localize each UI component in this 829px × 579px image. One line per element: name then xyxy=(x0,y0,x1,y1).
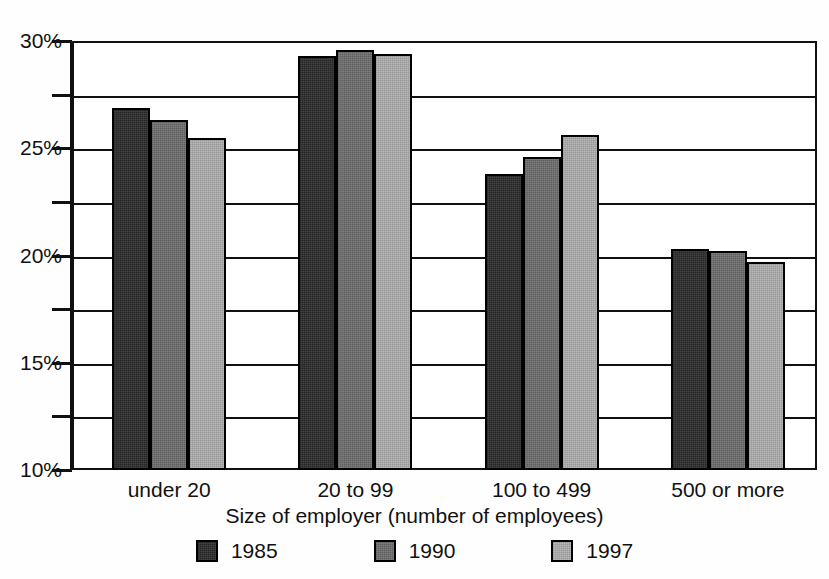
bar xyxy=(150,120,188,470)
legend-item: 1985 xyxy=(196,540,278,562)
legend-label: 1990 xyxy=(409,540,456,562)
y-tick-mark-30 xyxy=(52,40,72,43)
legend-label: 1997 xyxy=(586,540,633,562)
y-tick-mark-minor-22.5 xyxy=(52,201,72,204)
bar xyxy=(671,249,709,470)
x-tick-label: 500 or more xyxy=(628,478,828,502)
bar-group xyxy=(485,41,599,470)
bar xyxy=(298,56,336,470)
bar xyxy=(523,157,561,470)
y-tick-mark-25 xyxy=(52,147,72,150)
bar-group xyxy=(112,41,226,470)
y-tick-mark-10 xyxy=(52,469,72,472)
y-tick-mark-minor-12.5 xyxy=(52,415,72,418)
legend-label: 1985 xyxy=(231,540,278,562)
legend: 198519901997 xyxy=(0,540,829,562)
legend-swatch-icon xyxy=(196,540,218,562)
x-tick-label: 20 to 99 xyxy=(255,478,455,502)
legend-swatch-icon xyxy=(551,540,573,562)
legend-item: 1990 xyxy=(374,540,456,562)
bar xyxy=(485,174,523,470)
x-tick-label: 100 to 499 xyxy=(442,478,642,502)
bar-chart: 30%25%20%15%10% under 2020 to 99100 to 4… xyxy=(0,0,829,579)
y-tick-mark-15 xyxy=(52,362,72,365)
bar-group xyxy=(298,41,412,470)
bar xyxy=(188,138,226,470)
bar xyxy=(336,50,374,470)
legend-item: 1997 xyxy=(551,540,633,562)
legend-swatch-icon xyxy=(374,540,396,562)
x-axis-title: Size of employer (number of employees) xyxy=(0,504,829,528)
y-tick-mark-minor-17.5 xyxy=(52,308,72,311)
x-tick-label: under 20 xyxy=(69,478,269,502)
bar xyxy=(747,262,785,470)
bar xyxy=(709,251,747,470)
bar xyxy=(112,108,150,471)
bar xyxy=(374,54,412,470)
bar-group xyxy=(671,41,785,470)
bars-layer xyxy=(72,41,817,470)
y-tick-mark-minor-27.5 xyxy=(52,94,72,97)
bar xyxy=(561,135,599,470)
y-tick-mark-20 xyxy=(52,255,72,258)
